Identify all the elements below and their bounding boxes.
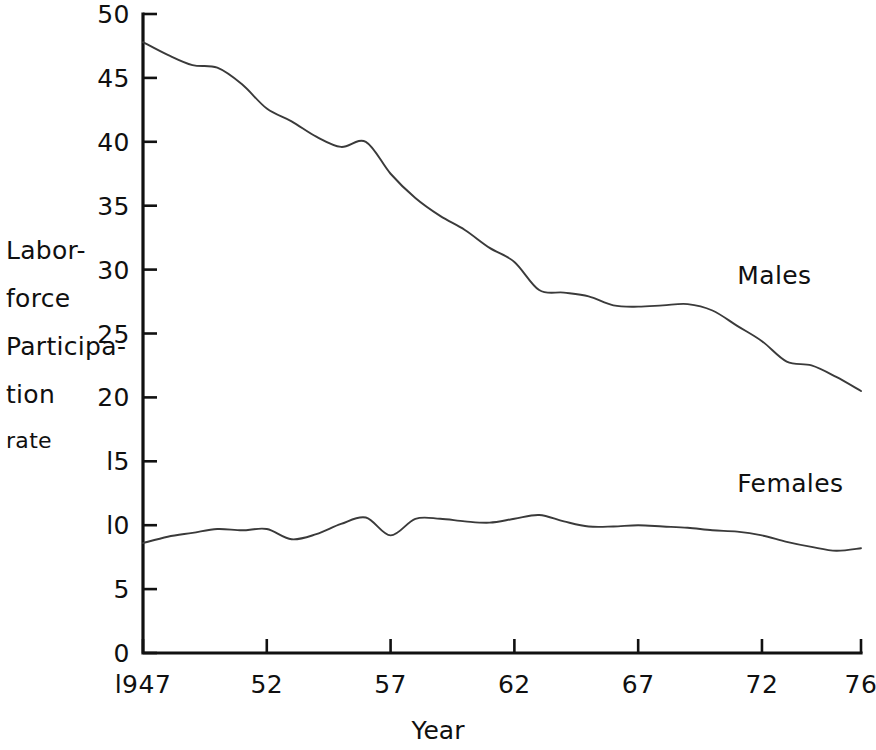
y-axis-title-line-1: Labor- [6,236,124,265]
x-tick-label: 72 [746,672,779,697]
series-line-females [143,515,861,551]
y-tick-label: 40 [60,129,130,154]
x-tick-label: 67 [622,672,655,697]
y-axis-title-line-3: Participa- [6,332,124,361]
y-tick-label: 5 [60,577,130,602]
x-axis-title: Year [412,718,465,743]
x-tick-label: 52 [250,672,283,697]
x-tick-label: l947 [115,672,172,697]
y-axis-title: Labor- force Participa- tion rate [6,236,124,472]
x-tick-label: 57 [374,672,407,697]
x-axis-ticks [143,639,861,653]
y-tick-label: 35 [60,193,130,218]
y-tick-label: l0 [60,513,130,538]
y-axis-title-line-4: tion [6,380,124,409]
chart-axes [143,14,861,653]
chart-figure: 05l0l520253035404550 l947525762677276 La… [0,0,876,750]
y-tick-label: 45 [60,65,130,90]
y-axis-title-line-5: rate [6,428,124,453]
series-line-males [143,42,861,391]
series-label-males: Males [737,263,811,288]
axis-lines [143,14,861,653]
y-tick-label: 0 [60,641,130,666]
y-axis-ticks [143,14,157,653]
x-tick-label: 76 [845,672,876,697]
line-chart-plot [0,0,876,750]
series-label-females: Females [737,471,843,496]
y-axis-title-line-2: force [6,284,124,313]
x-tick-label: 62 [498,672,531,697]
y-tick-label: 50 [60,2,130,27]
